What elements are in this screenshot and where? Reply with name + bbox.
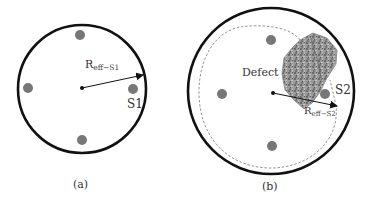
defect-region — [282, 33, 337, 109]
source-dot — [75, 30, 85, 40]
source-dot — [217, 89, 227, 99]
radius-label-b: Reff−S2 — [304, 105, 336, 118]
source-dot — [77, 135, 87, 145]
panel-a: Reff−S1 S1 (a) — [18, 25, 146, 191]
figure: Reff−S1 S1 (a) Defect S2 Reff−S2 (b) — [0, 0, 375, 202]
source-dot — [128, 84, 138, 94]
source-dot — [266, 35, 276, 45]
source-dot — [23, 83, 33, 93]
sensor-label-s1: S1 — [127, 97, 143, 111]
sensor-label-s2: S2 — [335, 83, 351, 97]
source-dot — [320, 89, 330, 99]
source-dot — [267, 141, 277, 151]
caption-a: (a) — [73, 178, 88, 191]
radius-label-a: Reff−S1 — [85, 58, 119, 72]
caption-b: (b) — [262, 180, 278, 193]
defect-label: Defect — [242, 66, 279, 79]
panel-b: Defect S2 Reff−S2 (b) — [188, 8, 354, 193]
